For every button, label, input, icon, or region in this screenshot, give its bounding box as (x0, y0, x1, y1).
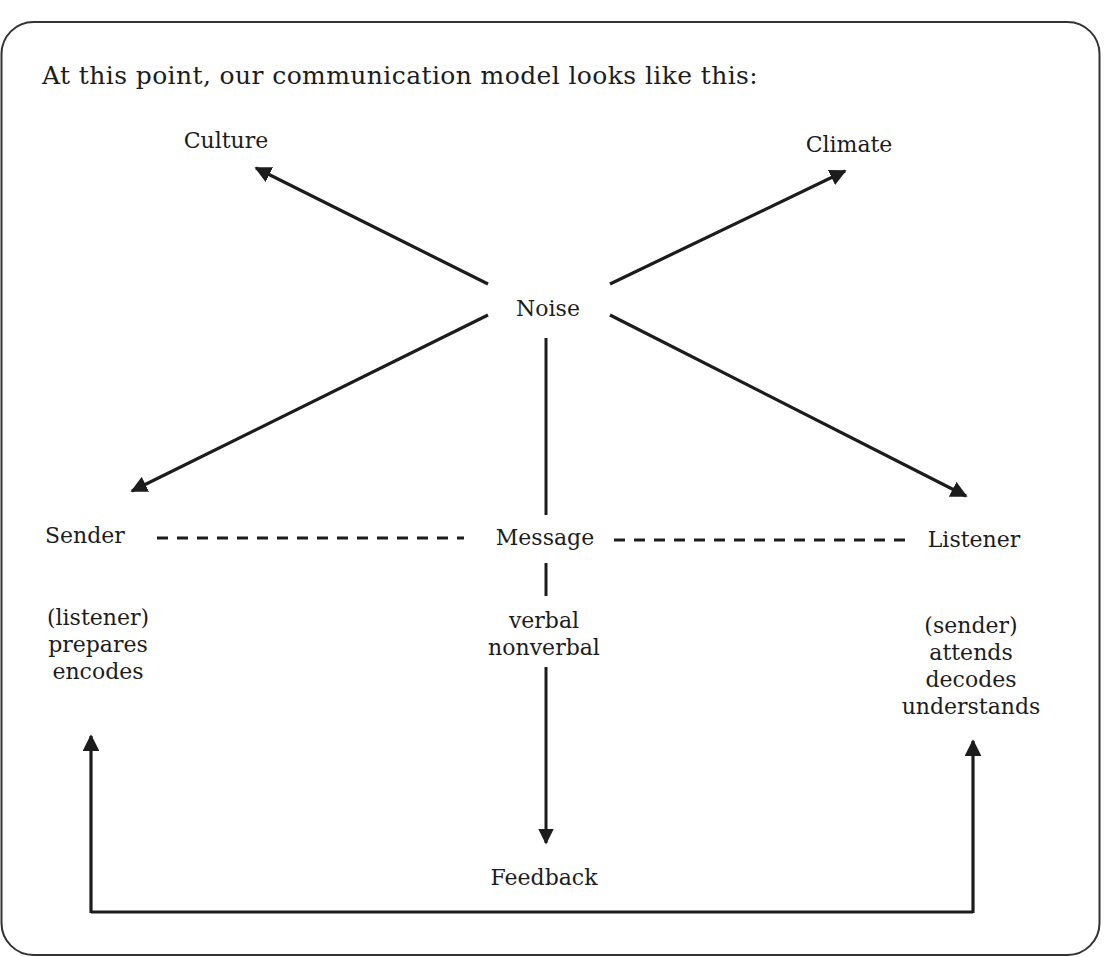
diagram-title: At this point, our communication model l… (42, 61, 758, 90)
communication-model-diagram (0, 0, 1108, 957)
listener-detail-line: decodes (902, 666, 1041, 693)
node-culture: Culture (184, 128, 269, 153)
arrow-noise-to-listener (610, 315, 966, 496)
listener-detail-line: understands (902, 693, 1041, 720)
arrow-noise-to-sender (132, 315, 488, 491)
listener-detail-line: attends (902, 639, 1041, 666)
arrow-noise-to-climate (610, 171, 845, 284)
diagram-frame (2, 22, 1100, 955)
arrow-noise-to-culture (256, 168, 488, 284)
node-sender: Sender (45, 523, 125, 548)
sender-detail-line: prepares (47, 631, 149, 658)
message-details: verbal nonverbal (488, 607, 600, 661)
node-climate: Climate (806, 132, 893, 157)
message-detail-line: nonverbal (488, 634, 600, 661)
sender-detail-line: (listener) (47, 604, 149, 631)
sender-details: (listener) prepares encodes (47, 604, 149, 685)
sender-detail-line: encodes (47, 658, 149, 685)
listener-detail-line: (sender) (902, 612, 1041, 639)
node-message: Message (496, 525, 594, 550)
node-listener: Listener (928, 527, 1021, 552)
listener-details: (sender) attends decodes understands (902, 612, 1041, 720)
node-noise: Noise (516, 296, 580, 321)
node-feedback: Feedback (490, 865, 597, 890)
message-detail-line: verbal (488, 607, 600, 634)
